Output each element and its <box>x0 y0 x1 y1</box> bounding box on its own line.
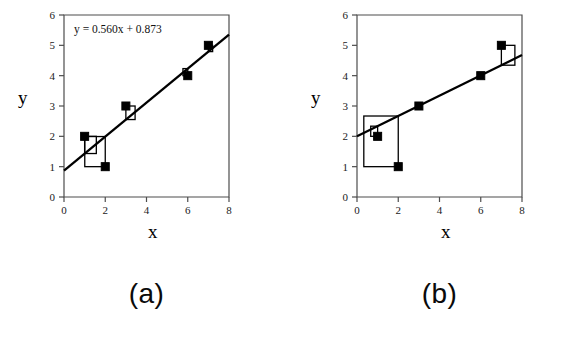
y-tick-label: 0 <box>50 191 56 203</box>
fit-line <box>64 35 229 171</box>
panel-a-caption: (a) <box>0 278 293 310</box>
y-tick-label: 3 <box>343 100 349 112</box>
x-tick-label: 6 <box>185 204 191 216</box>
x-tick-label: 2 <box>103 204 109 216</box>
data-point-marker <box>122 102 130 110</box>
regression-equation-label: y = 0.560x + 0.873 <box>74 23 162 36</box>
panel-a-y-axis-label: y <box>18 88 28 107</box>
data-point-marker <box>415 102 423 110</box>
data-point-marker <box>184 72 192 80</box>
panel-b-plot: 012345602468 <box>293 0 586 260</box>
y-tick-label: 6 <box>50 9 56 21</box>
panel-a-x-axis-label: x <box>148 222 158 241</box>
y-tick-label: 6 <box>343 9 349 21</box>
panel-b-y-axis-label: y <box>311 88 321 107</box>
panel-b-x-axis-label: x <box>441 222 451 241</box>
y-tick-label: 1 <box>343 161 349 173</box>
fit-line <box>357 55 522 136</box>
y-tick-label: 1 <box>50 161 56 173</box>
x-tick-label: 4 <box>144 204 150 216</box>
data-point-marker <box>477 72 485 80</box>
data-point-marker <box>497 41 505 49</box>
y-tick-label: 3 <box>50 100 56 112</box>
x-tick-label: 8 <box>519 204 525 216</box>
panel-b: 012345602468 y x (b) <box>293 0 586 347</box>
y-tick-label: 2 <box>343 130 349 142</box>
x-tick-label: 6 <box>478 204 484 216</box>
y-tick-label: 4 <box>343 70 349 82</box>
data-point-marker <box>204 41 212 49</box>
y-tick-label: 5 <box>50 39 56 51</box>
panel-b-caption: (b) <box>293 278 586 310</box>
data-point-marker <box>374 132 382 140</box>
regression-residuals-figure: 012345602468y = 0.560x + 0.873 y x (a) 0… <box>0 0 586 347</box>
x-tick-label: 4 <box>437 204 443 216</box>
x-tick-label: 2 <box>396 204 402 216</box>
panel-a: 012345602468y = 0.560x + 0.873 y x (a) <box>0 0 293 347</box>
x-tick-label: 8 <box>226 204 232 216</box>
y-tick-label: 4 <box>50 70 56 82</box>
x-tick-label: 0 <box>354 204 360 216</box>
data-point-marker <box>394 163 402 171</box>
x-tick-label: 0 <box>61 204 67 216</box>
panel-a-plot: 012345602468y = 0.560x + 0.873 <box>0 0 293 260</box>
y-tick-label: 2 <box>50 130 56 142</box>
data-point-marker <box>81 132 89 140</box>
y-tick-label: 0 <box>343 191 349 203</box>
data-point-marker <box>101 163 109 171</box>
y-tick-label: 5 <box>343 39 349 51</box>
